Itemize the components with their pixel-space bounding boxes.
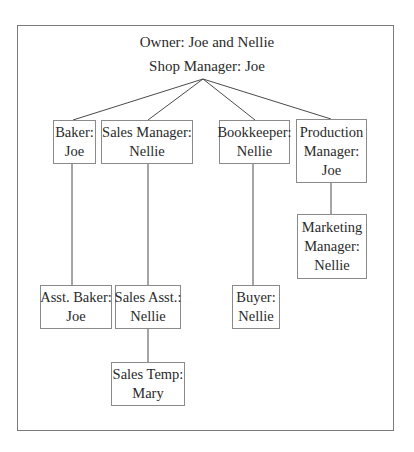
node-sales-temp: Sales Temp: Mary <box>111 362 185 406</box>
node-role-line2: Manager: <box>304 142 360 161</box>
node-bookkeeper: Bookkeeper: Nellie <box>219 120 290 164</box>
node-baker: Baker: Joe <box>53 120 96 164</box>
node-person: Mary <box>132 384 163 403</box>
node-role: Asst. Baker: <box>40 288 112 307</box>
node-sales-manager: Sales Manager: Nellie <box>101 120 193 164</box>
node-person: Joe <box>66 307 85 326</box>
node-role: Sales Manager: <box>102 123 192 142</box>
node-role-line2: Manager: <box>304 237 360 256</box>
node-person: Nellie <box>314 256 349 275</box>
node-role-line1: Marketing <box>302 218 362 237</box>
node-person: Joe <box>322 161 341 180</box>
node-asst-baker: Asst. Baker: Joe <box>40 285 112 329</box>
node-role: Bookkeeper: <box>217 123 291 142</box>
node-person: Nellie <box>129 142 164 161</box>
node-role: Baker: <box>55 123 94 142</box>
node-role: Sales Temp: <box>113 365 184 384</box>
owner-label: Owner: Joe and Nellie <box>0 33 414 51</box>
node-sales-asst: Sales Asst.: Nellie <box>115 285 181 329</box>
node-production-manager: Production Manager: Joe <box>296 119 367 183</box>
node-role-line1: Production <box>300 123 364 142</box>
node-person: Nellie <box>130 307 165 326</box>
node-person: Nellie <box>238 307 273 326</box>
node-buyer: Buyer: Nellie <box>232 285 280 329</box>
node-role: Buyer: <box>236 288 275 307</box>
node-role: Sales Asst.: <box>115 288 182 307</box>
node-marketing-manager: Marketing Manager: Nellie <box>297 214 367 279</box>
node-person: Nellie <box>237 142 272 161</box>
shop-manager-label: Shop Manager: Joe <box>0 57 414 75</box>
node-person: Joe <box>65 142 84 161</box>
